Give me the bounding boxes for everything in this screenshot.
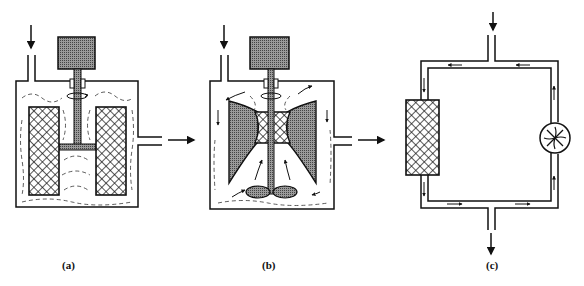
shaft bbox=[74, 69, 81, 145]
panel-a bbox=[16, 25, 194, 207]
impeller-blade-right bbox=[273, 186, 297, 198]
panel-b bbox=[210, 25, 384, 209]
fan-icon bbox=[540, 123, 570, 153]
panel-label-b: (b) bbox=[262, 259, 275, 271]
baffle-right bbox=[287, 101, 316, 183]
recycle-loop-inner bbox=[428, 68, 551, 201]
motor-icon bbox=[250, 37, 289, 69]
panel-c bbox=[406, 12, 570, 254]
reactor-diagram bbox=[0, 0, 584, 286]
catalyst-basket-right bbox=[96, 107, 126, 195]
panel-label-a: (a) bbox=[62, 259, 75, 271]
loop-flow-arrows bbox=[424, 65, 554, 204]
packed-bed bbox=[406, 100, 439, 175]
shaft bbox=[268, 69, 274, 194]
baffle-left bbox=[229, 101, 258, 183]
panel-label-c: (c) bbox=[486, 259, 498, 271]
catalyst-basket-left bbox=[29, 107, 59, 195]
rotation-arrow-icon bbox=[85, 94, 88, 97]
impeller-blade-left bbox=[246, 186, 270, 198]
motor-icon bbox=[58, 37, 95, 69]
